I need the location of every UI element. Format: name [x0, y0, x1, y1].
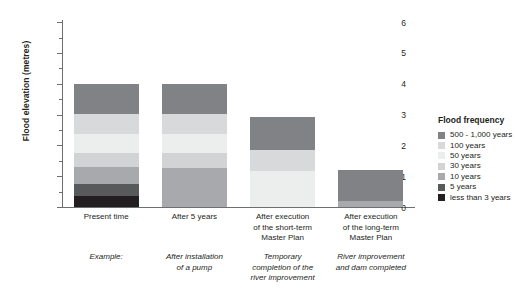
bar-segment: [250, 117, 315, 149]
legend-item-label: less than 3 years: [450, 194, 510, 202]
legend-swatch-icon: [438, 132, 445, 139]
bar-segment: [74, 184, 139, 196]
legend-swatch-icon: [438, 163, 445, 170]
bar-segment: [74, 196, 139, 207]
y-tick-minor: [59, 161, 63, 162]
x-axis-label-line: of the long-term: [343, 223, 399, 232]
annotation-line: completion of the: [252, 263, 313, 272]
annotation-row: Example:After installationof a pumpTempo…: [62, 252, 415, 296]
y-tick-label: 3: [401, 111, 406, 120]
legend-item: 5 years: [438, 182, 512, 192]
annotation-line: river improvement: [251, 273, 315, 282]
annotation-line: of a pump: [177, 263, 213, 272]
legend-item-label: 5 years: [450, 183, 476, 191]
legend-item: 100 years: [438, 140, 512, 150]
x-axis-label-line: of the short-term: [253, 223, 312, 232]
bar-segment: [74, 84, 139, 115]
bar-segment: [250, 171, 315, 206]
annotation-line: After installation: [166, 252, 223, 261]
bar-4: [338, 170, 403, 207]
y-axis-title: Flood elevation (metres): [21, 16, 31, 166]
x-axis-labels: Present timeAfter 5 yearsAfter execution…: [62, 212, 415, 252]
y-tick-major: [57, 176, 62, 177]
legend-swatch-icon: [438, 173, 445, 180]
bar-1: [74, 84, 139, 207]
bar-segment: [74, 134, 139, 152]
legend-title: Flood frequency: [438, 115, 512, 125]
x-axis-label-line: After 5 years: [172, 212, 217, 221]
y-tick-minor: [59, 38, 63, 39]
y-tick-major: [57, 145, 62, 146]
bar-segment: [74, 153, 139, 167]
bar-segment: [162, 84, 227, 115]
y-tick-minor: [59, 130, 63, 131]
bar-segment: [74, 114, 139, 134]
legend-item: less than 3 years: [438, 192, 512, 202]
annotation-line: and dam completed: [336, 263, 406, 272]
bar-segment: [74, 167, 139, 184]
y-tick-major: [57, 207, 62, 208]
legend-item-label: 100 years: [450, 142, 485, 150]
y-tick-label: 2: [401, 142, 406, 151]
legend-item: 30 years: [438, 161, 512, 171]
legend-item: 500 - 1,000 years: [438, 130, 512, 140]
annotation-4: River improvementand dam completed: [319, 252, 423, 273]
bar-segment: [162, 134, 227, 152]
bar-2: [162, 84, 227, 207]
x-axis-line: [62, 207, 415, 208]
y-tick-major: [57, 84, 62, 85]
legend-swatch-icon: [438, 142, 445, 149]
y-tick-major: [57, 53, 62, 54]
y-tick-label: 4: [401, 80, 406, 89]
legend-item-label: 30 years: [450, 162, 481, 170]
y-tick-minor: [59, 99, 63, 100]
bar-segment: [162, 168, 227, 207]
annotation-line: Example:: [89, 252, 122, 261]
legend-swatch-icon: [438, 194, 445, 201]
legend-item-label: 10 years: [450, 173, 481, 181]
legend-swatch-icon: [438, 152, 445, 159]
x-axis-label-line: Present time: [84, 212, 129, 221]
plot-area: 0123456: [62, 20, 415, 208]
y-axis-line: [62, 20, 63, 208]
y-tick-major: [57, 22, 62, 23]
y-tick-minor: [59, 68, 63, 69]
y-tick-major: [57, 115, 62, 116]
legend-item-label: 500 - 1,000 years: [450, 131, 512, 139]
x-axis-label-line: After execution: [256, 212, 309, 221]
bar-segment: [338, 170, 403, 201]
legend: Flood frequency 500 - 1,000 years100 yea…: [438, 115, 512, 203]
bar-segment: [162, 153, 227, 168]
legend-entries: 500 - 1,000 years100 years50 years30 yea…: [438, 130, 512, 203]
bar-3: [250, 117, 315, 206]
x-axis-label-line: Master Plan: [350, 233, 393, 242]
annotation-line: Temporary: [264, 252, 302, 261]
y-tick-label: 5: [401, 50, 406, 59]
y-tick-label: 6: [401, 19, 406, 28]
legend-item: 50 years: [438, 151, 512, 161]
y-tick-minor: [59, 192, 63, 193]
annotation-line: River improvement: [337, 252, 404, 261]
x-axis-label-line: After execution: [344, 212, 397, 221]
x-axis-label-line: Master Plan: [261, 233, 304, 242]
x-axis-label-4: After executionof the long-termMaster Pl…: [319, 212, 423, 244]
legend-swatch-icon: [438, 184, 445, 191]
bar-segment: [162, 114, 227, 134]
legend-item-label: 50 years: [450, 152, 481, 160]
legend-item: 10 years: [438, 172, 512, 182]
bar-segment: [338, 201, 403, 207]
flood-elevation-chart: Flood elevation (metres) 0123456 Present…: [0, 0, 515, 307]
bar-segment: [250, 150, 315, 172]
